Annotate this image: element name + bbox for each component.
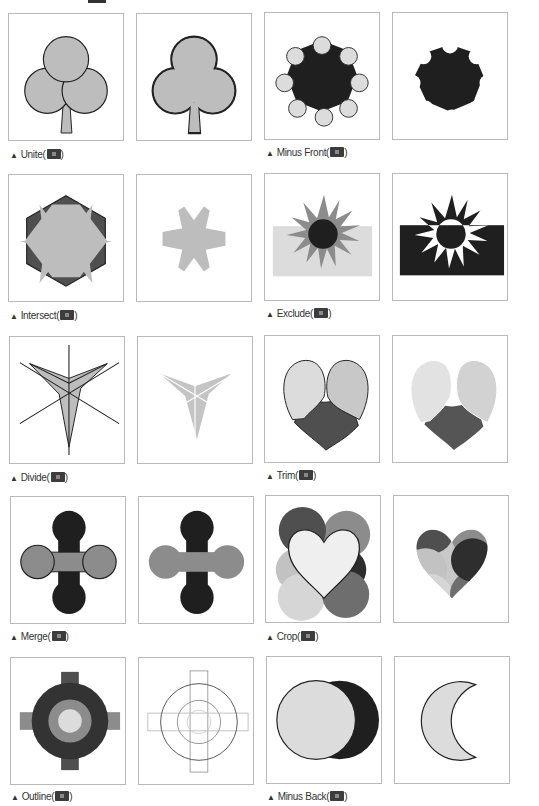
merge-after-illustration xyxy=(139,497,253,623)
unite-after-panel xyxy=(136,13,252,141)
triangle-marker-icon: ▲ xyxy=(266,149,274,158)
exclude-icon xyxy=(314,308,328,318)
crop-before-panel xyxy=(265,495,381,623)
merge-before-illustration xyxy=(11,497,125,623)
cropped-icon-fragment xyxy=(88,0,106,3)
trim-icon xyxy=(299,470,313,480)
divide-before-illustration xyxy=(10,337,124,463)
divide-after-illustration xyxy=(138,337,252,463)
divide-after-panel xyxy=(137,336,253,464)
triangle-marker-icon: ▲ xyxy=(11,793,19,802)
intersect-before-illustration xyxy=(9,175,123,301)
crop-icon xyxy=(301,631,315,641)
minus-front-after-panel xyxy=(392,12,508,140)
minus-front-icon xyxy=(330,147,344,157)
minus-back-caption: ▲Minus Back() xyxy=(267,791,347,804)
minus-front-before-panel xyxy=(264,12,380,140)
outline-caption: ▲Outline() xyxy=(11,791,72,804)
minus-back-before-panel xyxy=(266,656,382,784)
merge-after-panel xyxy=(138,496,254,624)
intersect-after-illustration xyxy=(137,175,251,301)
triangle-marker-icon: ▲ xyxy=(266,472,274,481)
merge-caption: ▲Merge() xyxy=(10,631,69,644)
triangle-marker-icon: ▲ xyxy=(266,310,274,319)
intersect-before-panel xyxy=(8,174,124,302)
triangle-marker-icon: ▲ xyxy=(10,312,18,321)
triangle-marker-icon: ▲ xyxy=(10,151,18,160)
exclude-before-panel xyxy=(264,173,380,301)
exclude-after-panel xyxy=(392,173,508,301)
top-crop-strip xyxy=(0,0,539,4)
trim-caption: ▲Trim() xyxy=(266,470,316,483)
divide-caption: ▲Divide() xyxy=(10,472,68,485)
minus-front-caption: ▲Minus Front() xyxy=(266,147,347,160)
crop-after-panel xyxy=(393,495,509,623)
intersect-after-panel xyxy=(136,174,252,302)
triangle-marker-icon: ▲ xyxy=(10,474,18,483)
crop-before-illustration xyxy=(266,496,380,622)
outline-before-panel xyxy=(10,657,126,785)
triangle-marker-icon: ▲ xyxy=(266,633,274,642)
minus-back-icon xyxy=(330,791,344,801)
unite-icon xyxy=(47,149,61,159)
divide-before-panel xyxy=(9,336,125,464)
merge-before-panel xyxy=(10,496,126,624)
unite-caption: ▲Unite() xyxy=(10,149,64,162)
intersect-icon xyxy=(60,310,74,320)
minus-back-after-illustration xyxy=(395,657,509,783)
unite-before-panel xyxy=(8,13,124,141)
exclude-caption: ▲Exclude() xyxy=(266,308,331,321)
minus-back-after-panel xyxy=(394,656,510,784)
exclude-before-illustration xyxy=(265,174,379,300)
unite-after-illustration xyxy=(137,14,251,140)
trim-after-panel xyxy=(392,335,508,463)
outline-before-illustration xyxy=(11,658,125,784)
minus-front-after-illustration xyxy=(393,13,507,139)
triangle-marker-icon: ▲ xyxy=(10,633,18,642)
unite-before-illustration xyxy=(9,14,123,140)
trim-before-illustration xyxy=(265,336,379,462)
outline-icon xyxy=(55,791,69,801)
triangle-marker-icon: ▲ xyxy=(267,793,275,802)
crop-caption: ▲Crop() xyxy=(266,631,318,644)
crop-after-illustration xyxy=(394,496,508,622)
outline-after-panel xyxy=(138,657,254,785)
merge-icon xyxy=(52,631,66,641)
trim-before-panel xyxy=(264,335,380,463)
divide-icon xyxy=(51,472,65,482)
intersect-caption: ▲Intersect() xyxy=(10,310,77,323)
minus-back-before-illustration xyxy=(267,657,381,783)
exclude-after-illustration xyxy=(393,174,507,300)
trim-after-illustration xyxy=(393,336,507,462)
minus-front-before-illustration xyxy=(265,13,379,139)
outline-after-illustration xyxy=(139,658,253,784)
